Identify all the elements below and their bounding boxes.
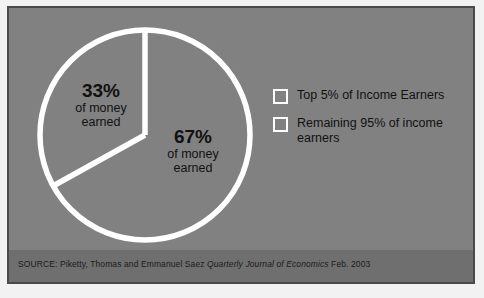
slice-sublabel-67-line1: of money (147, 147, 239, 161)
legend-swatch-icon (273, 117, 288, 132)
pie-slice-label-67: 67% of money earned (147, 126, 239, 175)
legend-item-top-5: Top 5% of Income Earners (273, 88, 473, 104)
chart-figure: 33% of money earned 67% of money earned … (0, 0, 484, 298)
pie-divider-lower-left (53, 135, 145, 186)
legend-item-remaining-95: Remaining 95% of income earners (273, 116, 473, 146)
pie-slice-label-33: 33% of money earned (55, 80, 147, 129)
slice-percent-67: 67% (147, 126, 239, 147)
source-journal-title: Quarterly Journal of Economics (207, 259, 329, 269)
source-band: SOURCE: Piketty, Thomas and Emmanuel Sae… (9, 250, 473, 282)
legend-label-remaining-95-line2: earners (297, 131, 339, 145)
source-suffix: Feb. 2003 (329, 259, 371, 269)
chart-legend: Top 5% of Income Earners Remaining 95% o… (273, 88, 473, 158)
slice-sublabel-33-line2: earned (55, 115, 147, 129)
slice-sublabel-33-line1: of money (55, 101, 147, 115)
source-prefix: SOURCE: Piketty, Thomas and Emmanuel Sae… (18, 259, 207, 269)
legend-label-remaining-95-line1: Remaining 95% of income (297, 116, 443, 130)
slice-percent-33: 33% (55, 80, 147, 101)
slice-sublabel-67-line2: earned (147, 161, 239, 175)
legend-label-top-5: Top 5% of Income Earners (297, 88, 444, 103)
legend-swatch-icon (273, 89, 288, 104)
source-citation: SOURCE: Piketty, Thomas and Emmanuel Sae… (18, 259, 370, 269)
chart-panel: 33% of money earned 67% of money earned … (7, 6, 475, 284)
plot-area: 33% of money earned 67% of money earned … (9, 8, 473, 254)
legend-label-remaining-95: Remaining 95% of income earners (297, 116, 443, 146)
